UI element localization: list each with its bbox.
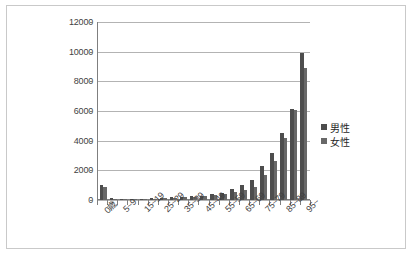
bar-group [158, 22, 168, 200]
y-axis-tick-labels: 120001000080006000400020000 [47, 22, 93, 200]
bar-female [284, 138, 288, 200]
bar-group [178, 22, 188, 200]
y-axis-tick-mark [90, 52, 93, 53]
bar-group [138, 22, 148, 200]
bar-group [259, 22, 269, 200]
bar-group [118, 22, 128, 200]
legend-swatch-male-icon [321, 124, 327, 130]
bar-group [219, 22, 229, 200]
bar-group [168, 22, 178, 200]
bar-group [108, 22, 118, 200]
legend-label-female: 女性 [330, 134, 350, 149]
bar-group [128, 22, 138, 200]
legend-swatch-female-icon [321, 138, 327, 144]
chart-legend: 男性 女性 [321, 120, 391, 148]
y-axis-tick-mark [90, 141, 93, 142]
bar-group [289, 22, 299, 200]
bar-group [249, 22, 259, 200]
y-axis-tick-mark [90, 81, 93, 82]
bar-group [98, 22, 108, 200]
bar-group [188, 22, 198, 200]
legend-item-male[interactable]: 男性 [321, 120, 391, 134]
bar-female [304, 68, 308, 200]
bar-female [103, 187, 107, 200]
chart-frame: 120001000080006000400020000 0歳5~915~1925… [6, 5, 406, 249]
plot-area [97, 22, 310, 200]
x-axis-tick-labels: 0歳5~915~1925~2935~3945~4955~5965~6975~79… [67, 205, 327, 249]
y-axis-tick-mark [90, 111, 93, 112]
bar-group [229, 22, 239, 200]
bar-group [269, 22, 279, 200]
bar-group [209, 22, 219, 200]
bar-group [279, 22, 289, 200]
bar-group [299, 22, 309, 200]
bar-group [239, 22, 249, 200]
legend-item-female[interactable]: 女性 [321, 134, 391, 148]
bar-group [148, 22, 158, 200]
bar-female [294, 110, 298, 200]
bars-layer [97, 22, 310, 200]
y-axis-tick-mark [90, 170, 93, 171]
y-axis-tick-mark [90, 200, 93, 201]
y-axis-tick-mark [90, 22, 93, 23]
legend-label-male: 男性 [330, 120, 350, 135]
bar-group [198, 22, 208, 200]
